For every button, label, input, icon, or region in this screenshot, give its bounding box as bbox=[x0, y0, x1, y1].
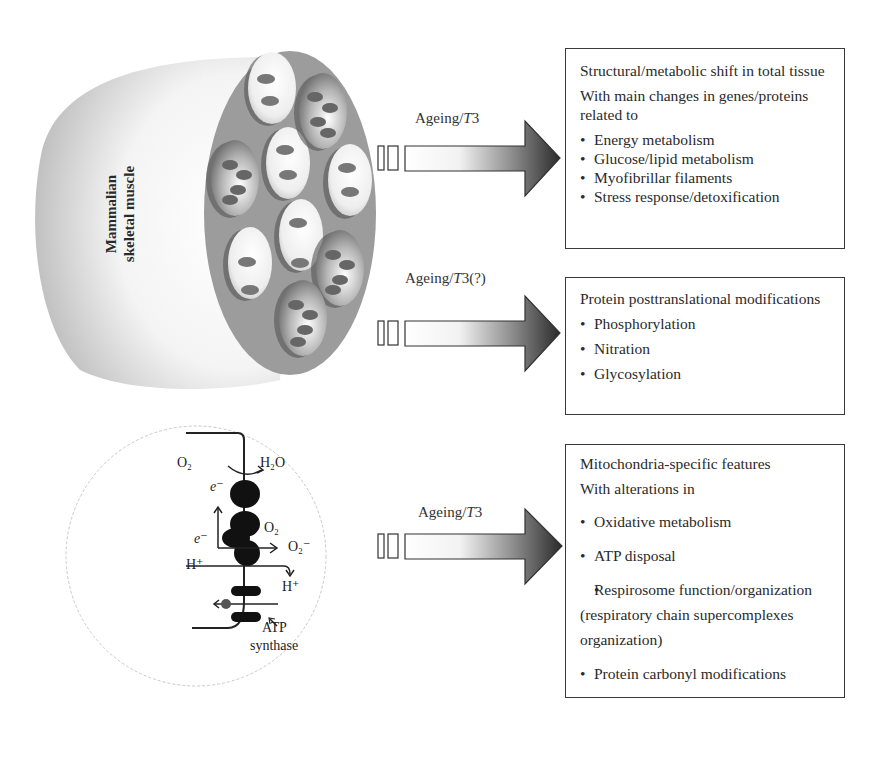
list-item: Myofibrillar filaments bbox=[580, 168, 832, 187]
h-plus-left-label: H⁺ bbox=[186, 556, 204, 573]
box-3-list: Oxidative metabolism ATP disposal Respir… bbox=[580, 509, 832, 686]
e-mid-label: e⁻ bbox=[194, 530, 208, 547]
list-item: Oxidative metabolism bbox=[580, 509, 832, 534]
box-2-list: Phosphorylation Nitration Glycosylation bbox=[580, 311, 832, 386]
synthase-label: synthase bbox=[250, 638, 298, 654]
list-item: ATP disposal bbox=[580, 543, 832, 568]
list-item: Energy metabolism bbox=[580, 130, 832, 149]
box-1-subheading: With main changes in genes/proteins rela… bbox=[580, 86, 832, 124]
box-ptm: Protein posttranslational modifications … bbox=[565, 277, 845, 415]
box-tissue-shift: Structural/metabolic shift in total tiss… bbox=[565, 48, 845, 249]
arrow-2 bbox=[378, 296, 560, 371]
muscle-label-line2: skeletal muscle bbox=[120, 144, 138, 284]
box-3-subheading: With alterations in bbox=[580, 476, 832, 501]
o2-top-label: O₂ bbox=[177, 455, 192, 471]
arrow-1-label: Ageing/T3 bbox=[415, 110, 479, 127]
box-1-list: Energy metabolism Glucose/lipid metaboli… bbox=[580, 130, 832, 206]
list-item: Stress response/detoxification bbox=[580, 187, 832, 206]
o2-mid-label: O₂ bbox=[264, 520, 279, 536]
box-2-heading: Protein posttranslational modifications bbox=[580, 286, 832, 311]
list-item: Glycosylation bbox=[580, 361, 832, 386]
list-item: Phosphorylation bbox=[580, 311, 832, 336]
muscle-label: Mammalian skeletal muscle bbox=[102, 144, 142, 284]
e-top-label: e⁻ bbox=[210, 478, 224, 495]
list-item: Respirosome function/organization (respi… bbox=[580, 577, 832, 652]
arrow-3-label: Ageing/T3 bbox=[418, 504, 482, 521]
box-3-heading: Mitochondria-specific features bbox=[580, 451, 832, 476]
arrow-2-label: Ageing/T3(?) bbox=[405, 270, 486, 287]
box-1-heading: Structural/metabolic shift in total tiss… bbox=[580, 61, 832, 80]
list-item: Nitration bbox=[580, 336, 832, 361]
superoxide-label: O₂⁻ bbox=[288, 538, 310, 555]
list-item: Glucose/lipid metabolism bbox=[580, 149, 832, 168]
box-mitochondria: Mitochondria-specific features With alte… bbox=[565, 444, 845, 698]
h2o-label: H₂O bbox=[260, 455, 285, 471]
h-plus-right-label: H⁺ bbox=[282, 578, 300, 595]
list-item: Protein carbonyl modifications bbox=[580, 661, 832, 686]
muscle-label-line1: Mammalian bbox=[102, 144, 120, 284]
atp-label: ATP bbox=[262, 620, 287, 636]
arrow-1 bbox=[378, 121, 560, 196]
